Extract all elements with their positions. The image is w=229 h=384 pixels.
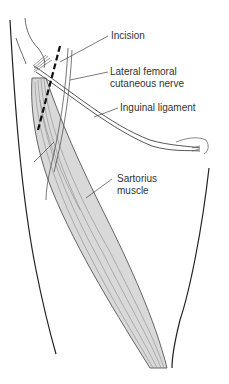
leader-inguinal [94, 108, 118, 117]
label-sartorius-line1: Sartorius [117, 173, 157, 185]
leader-incision [60, 36, 108, 62]
label-inguinal-ligament: Inguinal ligament [120, 102, 196, 114]
right-thigh-outline [172, 168, 209, 368]
label-sartorius-line2: muscle [117, 185, 149, 197]
asis-fan [33, 55, 52, 72]
anatomy-diagram: Incision Lateral femoral cutaneous nerve… [0, 0, 229, 384]
label-incision: Incision [111, 30, 145, 42]
label-lateral-femoral-line1: Lateral femoral [110, 66, 177, 78]
leader-lateral-femoral [70, 72, 108, 80]
diagram-svg [0, 0, 229, 384]
label-lateral-femoral-line2: cutaneous nerve [110, 78, 184, 90]
iliac-contour [16, 18, 45, 68]
left-thigh-outline [10, 20, 56, 354]
